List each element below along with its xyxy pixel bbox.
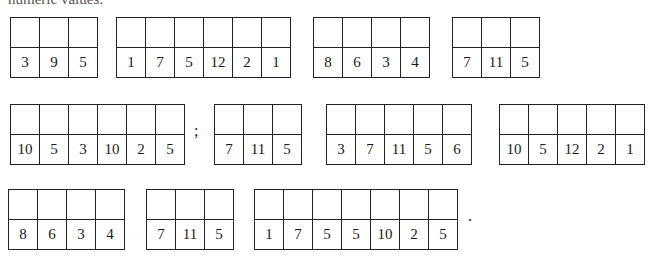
empty-cell [96, 190, 125, 220]
array-box: 17551025 [254, 189, 458, 250]
empty-cell [342, 190, 371, 220]
empty-cell [215, 105, 244, 135]
empty-cell [156, 105, 185, 135]
value-cell: 2 [127, 135, 156, 165]
empty-cell [401, 18, 430, 48]
value-cell: 3 [67, 220, 96, 250]
empty-cell [443, 105, 472, 135]
empty-cell [313, 190, 342, 220]
value-cell: 10 [371, 220, 400, 250]
empty-cell [175, 18, 204, 48]
empty-cell [40, 105, 69, 135]
empty-cell [414, 105, 443, 135]
value-cell: 1 [117, 48, 146, 78]
value-cell: 2 [400, 220, 429, 250]
value-cell: 3 [372, 48, 401, 78]
empty-cell [127, 105, 156, 135]
value-cell: 2 [587, 135, 616, 165]
array-box: 10531025 [10, 104, 185, 165]
value-cell: 5 [40, 135, 69, 165]
value-cell: 5 [511, 48, 540, 78]
value-cell: 7 [453, 48, 482, 78]
value-cell: 5 [175, 48, 204, 78]
array-box: 7115 [452, 17, 540, 78]
empty-cell [372, 18, 401, 48]
value-cell: 11 [244, 135, 273, 165]
empty-cell [558, 105, 587, 135]
value-cell: 5 [205, 220, 234, 250]
value-cell: 6 [443, 135, 472, 165]
empty-cell [511, 18, 540, 48]
empty-cell [356, 105, 385, 135]
empty-cell [117, 18, 146, 48]
value-cell: 8 [9, 220, 38, 250]
array-box: 371156 [326, 104, 472, 165]
empty-cell [98, 105, 127, 135]
value-cell: 12 [204, 48, 233, 78]
empty-cell [147, 190, 176, 220]
value-cell: 7 [284, 220, 313, 250]
empty-cell [244, 105, 273, 135]
empty-cell [9, 190, 38, 220]
semicolon: ; [194, 122, 198, 140]
empty-cell [204, 18, 233, 48]
value-cell: 12 [558, 135, 587, 165]
value-cell: 7 [215, 135, 244, 165]
value-cell: 2 [233, 48, 262, 78]
empty-cell [69, 18, 98, 48]
value-cell: 7 [146, 48, 175, 78]
value-cell: 10 [11, 135, 40, 165]
value-cell: 5 [342, 220, 371, 250]
value-cell: 11 [176, 220, 205, 250]
empty-cell [11, 18, 40, 48]
empty-cell [500, 105, 529, 135]
value-cell: 7 [147, 220, 176, 250]
empty-cell [616, 105, 645, 135]
empty-cell [400, 190, 429, 220]
empty-cell [371, 190, 400, 220]
empty-cell [327, 105, 356, 135]
empty-cell [69, 105, 98, 135]
value-cell: 5 [529, 135, 558, 165]
empty-cell [385, 105, 414, 135]
cut-off-heading-text: numeric values: [8, 0, 103, 8]
array-box: 395 [10, 17, 98, 78]
value-cell: 1 [616, 135, 645, 165]
value-cell: 3 [11, 48, 40, 78]
value-cell: 8 [314, 48, 343, 78]
empty-cell [314, 18, 343, 48]
array-box: 1051221 [499, 104, 645, 165]
empty-cell [529, 105, 558, 135]
empty-cell [233, 18, 262, 48]
value-cell: 4 [401, 48, 430, 78]
empty-cell [284, 190, 313, 220]
empty-cell [205, 190, 234, 220]
value-cell: 1 [255, 220, 284, 250]
value-cell: 1 [262, 48, 291, 78]
empty-cell [429, 190, 458, 220]
value-cell: 5 [313, 220, 342, 250]
empty-cell [255, 190, 284, 220]
value-cell: 9 [40, 48, 69, 78]
period: . [468, 207, 472, 225]
empty-cell [482, 18, 511, 48]
value-cell: 7 [356, 135, 385, 165]
empty-cell [453, 18, 482, 48]
value-cell: 6 [38, 220, 67, 250]
empty-cell [146, 18, 175, 48]
empty-cell [67, 190, 96, 220]
value-cell: 5 [69, 48, 98, 78]
value-cell: 5 [429, 220, 458, 250]
value-cell: 10 [98, 135, 127, 165]
array-box: 1751221 [116, 17, 291, 78]
empty-cell [176, 190, 205, 220]
value-cell: 3 [69, 135, 98, 165]
value-cell: 11 [482, 48, 511, 78]
empty-cell [587, 105, 616, 135]
value-cell: 4 [96, 220, 125, 250]
empty-cell [273, 105, 302, 135]
empty-cell [343, 18, 372, 48]
empty-cell [40, 18, 69, 48]
empty-cell [38, 190, 67, 220]
value-cell: 3 [327, 135, 356, 165]
